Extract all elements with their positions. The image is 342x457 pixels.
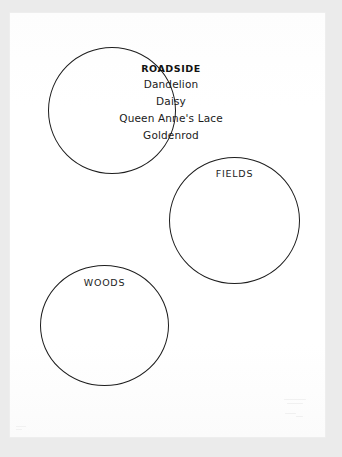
list-item: Queen Anne's Lace bbox=[0, 110, 342, 127]
list-item: Goldenrod bbox=[0, 127, 342, 144]
circle-roadside-content: ROADSIDE Dandelion Daisy Queen Anne's La… bbox=[0, 64, 342, 144]
worksheet-canvas: ROADSIDE Dandelion Daisy Queen Anne's La… bbox=[0, 0, 342, 457]
circle-woods-heading: WOODS bbox=[40, 278, 169, 288]
circle-fields-heading: FIELDS bbox=[169, 169, 300, 179]
list-item: Dandelion bbox=[0, 76, 342, 93]
circle-fields-content: FIELDS bbox=[169, 169, 300, 179]
circle-woods-content: WOODS bbox=[40, 278, 169, 288]
circle-roadside-heading: ROADSIDE bbox=[0, 64, 342, 74]
circle-roadside-entry-list: Dandelion Daisy Queen Anne's Lace Golden… bbox=[0, 76, 342, 143]
list-item: Daisy bbox=[0, 93, 342, 110]
